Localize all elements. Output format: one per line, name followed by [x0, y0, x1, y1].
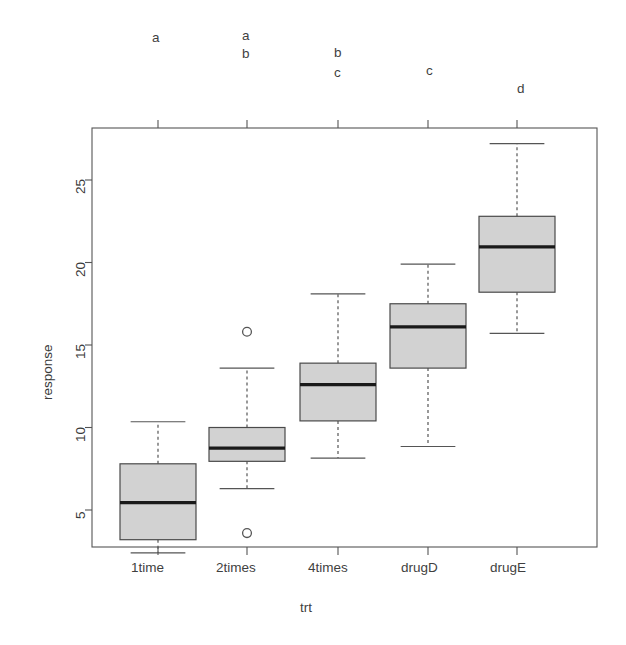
box-drugE [479, 144, 555, 334]
box-rect [300, 363, 376, 421]
outlier-point [243, 327, 252, 336]
plot-canvas [0, 0, 626, 645]
box-drugD [390, 264, 466, 446]
box-rect [390, 304, 466, 368]
box-rect [209, 428, 285, 462]
box-4times [300, 294, 376, 458]
outlier-point [243, 529, 252, 538]
boxplot-figure: a a b b c c d response 5 10 15 20 25 1ti… [0, 0, 626, 645]
box-1time [120, 422, 196, 553]
box-rect [479, 216, 555, 292]
box-2times [209, 327, 285, 537]
